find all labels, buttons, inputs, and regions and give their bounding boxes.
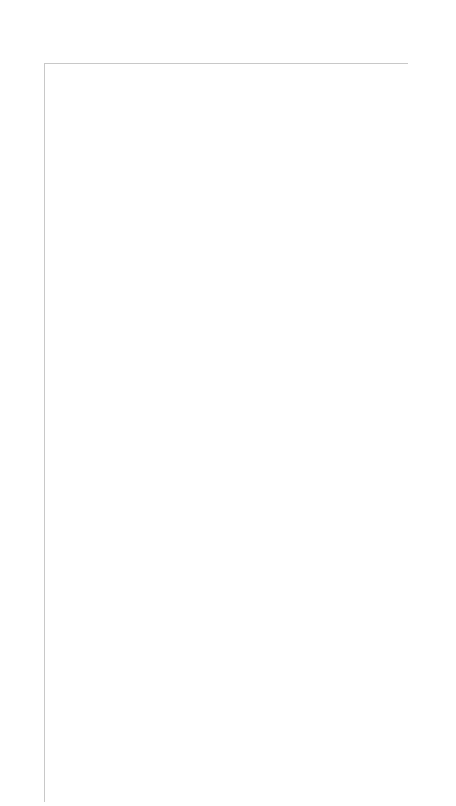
knitting-chart-grid: [44, 63, 408, 802]
